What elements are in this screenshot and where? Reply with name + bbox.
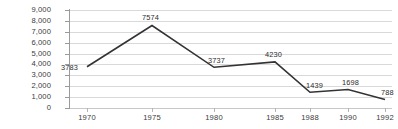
data-point-label: 3737 bbox=[208, 56, 225, 65]
line-chart: 9,0008,0007,0006,0005,0004,0003,0002,000… bbox=[0, 0, 398, 129]
data-point-label: 4230 bbox=[265, 50, 282, 59]
series-line bbox=[0, 0, 398, 129]
data-point-label: 1439 bbox=[306, 81, 323, 90]
data-point-label: 7574 bbox=[142, 13, 159, 22]
data-point-label: 3783 bbox=[61, 63, 78, 72]
data-point-label: 1698 bbox=[342, 78, 359, 87]
data-point-label: 788 bbox=[381, 88, 394, 97]
